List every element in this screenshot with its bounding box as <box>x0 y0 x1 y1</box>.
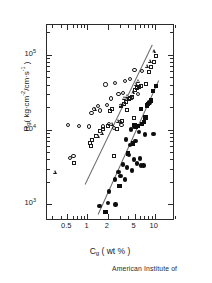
data-point-open-circles <box>109 96 113 100</box>
data-point-open-squares <box>144 82 148 86</box>
y-minor-tick <box>47 85 50 86</box>
data-point-open-circles <box>68 156 72 160</box>
data-point-open-squares <box>72 161 76 165</box>
data-point-open-triangles <box>152 49 156 53</box>
x-minor-tick <box>152 216 153 219</box>
data-point-open-triangles <box>116 119 120 123</box>
y-tick-base: 10 <box>25 49 33 58</box>
x-minor-tick <box>52 216 53 219</box>
y-major-tick <box>47 55 52 56</box>
data-point-open-squares <box>89 144 93 148</box>
data-point-filled-circles <box>125 165 129 169</box>
x-minor-tick <box>120 216 121 219</box>
y-minor-tick <box>47 169 50 170</box>
x-minor-tick <box>61 25 62 28</box>
x-minor-tick <box>128 216 129 219</box>
data-point-filled-circles <box>137 130 141 134</box>
y-minor-tick <box>47 71 50 72</box>
y-tick-exponent: 3 <box>33 197 36 203</box>
x-tick-label: 2 <box>95 222 119 230</box>
y-minor-tick <box>170 66 173 67</box>
y-minor-tick <box>170 146 173 147</box>
x-minor-tick <box>84 216 85 219</box>
data-point-open-triangles <box>53 170 57 174</box>
data-point-open-circles <box>66 123 70 127</box>
y-tick-label: 103 <box>6 199 36 207</box>
y-major-tick <box>47 204 52 205</box>
x-minor-tick <box>144 25 145 28</box>
data-point-filled-squares <box>151 89 155 93</box>
data-point-open-triangles <box>93 107 97 111</box>
x-major-tick <box>87 214 88 219</box>
y-minor-tick <box>170 159 173 160</box>
y-major-tick <box>47 130 52 131</box>
x-axis-subscript: g <box>96 250 99 256</box>
data-point-open-squares <box>152 60 156 64</box>
y-major-tick <box>168 204 173 205</box>
y-minor-tick <box>170 141 173 142</box>
y-major-tick <box>168 130 173 131</box>
y-minor-tick <box>47 146 50 147</box>
data-point-filled-circles <box>106 201 110 205</box>
x-minor-tick <box>152 25 153 28</box>
y-minor-tick <box>170 137 173 138</box>
data-point-open-squares <box>154 54 158 58</box>
y-minor-tick <box>47 141 50 142</box>
data-point-filled-squares <box>154 84 158 88</box>
x-minor-tick <box>175 25 176 28</box>
data-point-filled-squares <box>131 141 135 145</box>
y-minor-tick <box>47 62 50 63</box>
y-minor-tick <box>170 169 173 170</box>
data-point-open-circles <box>116 92 120 96</box>
y-axis-unit-close: ) <box>22 61 31 66</box>
x-minor-tick <box>84 25 85 28</box>
data-point-open-circles <box>119 123 123 127</box>
x-minor-tick <box>175 216 176 219</box>
data-point-filled-circles <box>107 189 111 193</box>
y-minor-tick <box>170 152 173 153</box>
data-point-open-triangles <box>110 122 114 126</box>
x-major-tick <box>108 25 109 30</box>
x-minor-tick <box>140 216 141 219</box>
x-minor-tick <box>52 25 53 28</box>
data-point-open-circles <box>113 81 117 85</box>
data-point-filled-circles <box>113 177 117 181</box>
x-tick-label: 10 <box>142 222 166 230</box>
data-point-open-squares <box>125 108 129 112</box>
data-point-open-squares <box>112 154 116 158</box>
data-point-filled-circles <box>143 132 147 136</box>
figure-container: Rg( kg·cm-2/cm·s-1 ) 105104103 0.512510 … <box>0 0 212 283</box>
data-point-open-squares <box>120 119 124 123</box>
y-minor-tick <box>47 66 50 67</box>
data-point-open-squares <box>149 65 153 69</box>
y-minor-tick <box>170 94 173 95</box>
y-minor-tick <box>170 71 173 72</box>
x-minor-tick <box>81 216 82 219</box>
x-major-tick <box>155 214 156 219</box>
data-point-open-triangles <box>119 103 123 107</box>
y-minor-tick <box>47 137 50 138</box>
y-minor-tick <box>47 133 50 134</box>
data-point-open-circles <box>136 92 140 96</box>
data-point-open-circles <box>132 68 136 72</box>
y-minor-tick <box>47 182 50 183</box>
x-minor-tick <box>120 25 121 28</box>
data-point-filled-circles <box>141 163 145 167</box>
data-point-open-squares <box>147 70 151 74</box>
data-point-filled-squares <box>142 120 146 124</box>
data-point-open-circles <box>71 154 75 158</box>
data-point-open-triangles <box>131 90 135 94</box>
data-point-filled-squares <box>149 98 153 102</box>
x-minor-tick <box>148 216 149 219</box>
y-minor-tick <box>47 32 50 33</box>
y-axis-unit-open: ( kg·cm <box>22 96 31 123</box>
data-point-open-circles <box>89 111 93 115</box>
x-minor-tick <box>61 216 62 219</box>
y-minor-tick <box>170 32 173 33</box>
x-minor-tick <box>81 25 82 28</box>
data-point-filled-squares <box>126 151 130 155</box>
y-axis-unit-exp2: -1 <box>20 66 26 71</box>
y-axis-unit-exp1: -2 <box>20 91 26 96</box>
x-major-tick <box>108 214 109 219</box>
x-axis-title: Cg ( wt % ) <box>46 246 174 256</box>
